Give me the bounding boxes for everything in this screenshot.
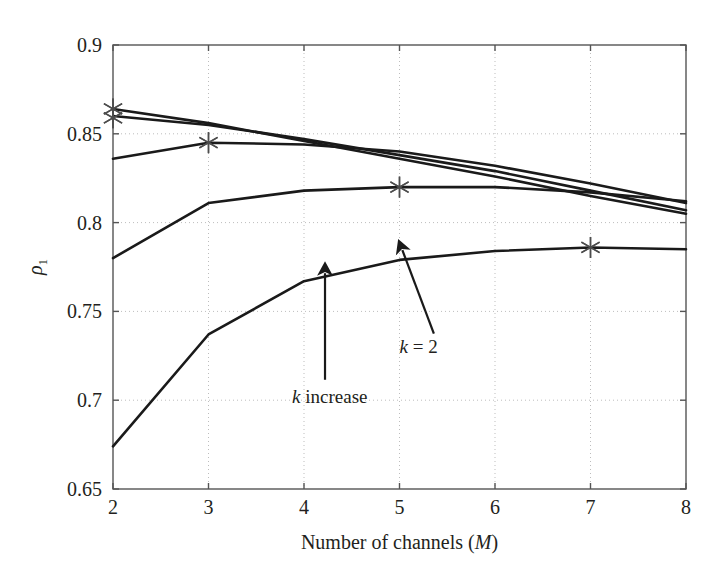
y-tick-label: 0.65 [67, 478, 102, 500]
x-tick-label: 2 [108, 496, 118, 518]
annotation-label-k-equals-2: k = 2 [400, 336, 438, 357]
x-axis-title: Number of channels (M) [301, 531, 498, 554]
x-tick-label: 7 [586, 496, 596, 518]
figure-container: 2345678 0.650.70.750.80.850.9 k increase… [0, 0, 723, 574]
x-tick-label: 5 [395, 496, 405, 518]
y-tick-label: 0.7 [77, 389, 102, 411]
y-tick-label: 0.85 [67, 123, 102, 145]
chart-plot: 2345678 0.650.70.750.80.850.9 k increase… [0, 0, 723, 574]
x-tick-label: 4 [299, 496, 309, 518]
y-tick-label: 0.75 [67, 300, 102, 322]
y-tick-label: 0.9 [77, 34, 102, 56]
x-tick-label: 8 [681, 496, 691, 518]
x-tick-label: 3 [204, 496, 214, 518]
x-tick-label: 6 [490, 496, 500, 518]
annotation-label-k-increase: k increase [292, 386, 367, 407]
y-tick-label: 0.8 [77, 212, 102, 234]
figure-background [0, 0, 723, 574]
